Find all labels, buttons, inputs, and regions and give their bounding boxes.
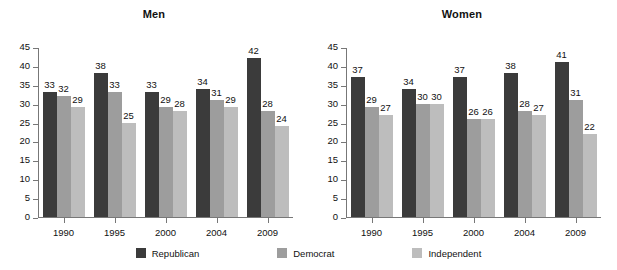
bar-value-label: 42 — [248, 45, 259, 56]
legend-item[interactable]: Independent — [412, 248, 481, 259]
bar: 33 — [108, 47, 122, 217]
y-tick-label: 15 — [316, 154, 338, 165]
chart-title-women: Women — [308, 8, 616, 20]
bar-rect — [159, 107, 173, 217]
bar-value-label: 31 — [570, 87, 581, 98]
bar-set: 332928 — [140, 47, 191, 217]
chart-panel-women: Women 051015202530354045 372927199034303… — [308, 0, 616, 240]
bar: 29 — [224, 47, 238, 217]
y-tick-label: 40 — [316, 60, 338, 71]
legend-label: Democrat — [293, 248, 334, 259]
legend-label: Republican — [152, 248, 200, 259]
legend-swatch-icon — [136, 248, 146, 258]
bar-rect — [416, 104, 430, 217]
x-tick-label: 2000 — [155, 227, 176, 238]
bar: 38 — [504, 47, 518, 217]
bar-rect — [247, 58, 261, 217]
bar-set: 422824 — [242, 47, 293, 217]
y-tick-label: 5 — [316, 192, 338, 203]
bar-value-label: 30 — [417, 91, 428, 102]
bar-value-label: 24 — [276, 113, 287, 124]
y-tick-label: 35 — [316, 79, 338, 90]
bar: 27 — [379, 47, 393, 217]
bar-rect — [224, 107, 238, 217]
x-tick-label: 1995 — [412, 227, 433, 238]
bar-rect — [43, 92, 57, 217]
bar: 32 — [57, 47, 71, 217]
legend-item[interactable]: Republican — [136, 248, 200, 259]
bar-set: 382827 — [499, 47, 550, 217]
bar-value-label: 29 — [225, 94, 236, 105]
legend-item[interactable]: Democrat — [277, 248, 334, 259]
x-tick-mark — [64, 218, 65, 223]
bar: 34 — [402, 47, 416, 217]
y-tick-label: 30 — [316, 98, 338, 109]
bar-value-label: 34 — [197, 76, 208, 87]
bar-rect — [275, 126, 289, 217]
x-tick-label: 1995 — [104, 227, 125, 238]
bar-rect — [481, 119, 495, 217]
y-tick-label: 20 — [8, 135, 30, 146]
bar-value-label: 31 — [211, 87, 222, 98]
bar-value-label: 29 — [160, 94, 171, 105]
bar: 28 — [518, 47, 532, 217]
y-tick-mark — [341, 218, 346, 219]
bar: 28 — [173, 47, 187, 217]
bar: 38 — [94, 47, 108, 217]
bar-value-label: 33 — [146, 79, 157, 90]
bar-rect — [430, 104, 444, 217]
x-tick-mark — [525, 218, 526, 223]
bar-rect — [173, 111, 187, 217]
y-tick-label: 40 — [8, 60, 30, 71]
y-tick-label: 35 — [8, 79, 30, 90]
bar-value-label: 22 — [584, 121, 595, 132]
x-tick-mark — [423, 218, 424, 223]
bar-rect — [94, 73, 108, 217]
bar-value-label: 37 — [352, 64, 363, 75]
bar: 27 — [532, 47, 546, 217]
bar: 29 — [71, 47, 85, 217]
y-tick-label: 5 — [8, 192, 30, 203]
bar-rect — [402, 89, 416, 217]
legend-label: Independent — [428, 248, 481, 259]
bar-value-label: 29 — [72, 94, 83, 105]
bar: 41 — [555, 47, 569, 217]
bar: 22 — [583, 47, 597, 217]
bar-rect — [379, 115, 393, 217]
bar-set: 343129 — [191, 47, 242, 217]
y-tick-label: 25 — [316, 117, 338, 128]
y-tick-label: 25 — [8, 117, 30, 128]
bar-rect — [532, 115, 546, 217]
bar-value-label: 28 — [262, 98, 273, 109]
bar-rect — [57, 96, 71, 217]
bar-group: 372626 — [448, 47, 499, 217]
bar-value-label: 38 — [95, 60, 106, 71]
bar-value-label: 32 — [58, 83, 69, 94]
x-tick-label: 2004 — [514, 227, 535, 238]
x-tick-label: 2009 — [257, 227, 278, 238]
y-tick-label: 45 — [8, 41, 30, 52]
bar: 30 — [416, 47, 430, 217]
bar: 33 — [145, 47, 159, 217]
bar-value-label: 29 — [366, 94, 377, 105]
x-tick-label: 1990 — [361, 227, 382, 238]
bar: 33 — [43, 47, 57, 217]
y-tick-label: 30 — [8, 98, 30, 109]
bar-value-label: 26 — [468, 106, 479, 117]
bar-rect — [351, 77, 365, 217]
bar-set: 383325 — [89, 47, 140, 217]
y-tick-label: 20 — [316, 135, 338, 146]
x-tick-label: 2000 — [463, 227, 484, 238]
y-tick-label: 10 — [8, 173, 30, 184]
y-tick-label: 10 — [316, 173, 338, 184]
bar-value-label: 37 — [454, 64, 465, 75]
bar-set: 372626 — [448, 47, 499, 217]
x-tick-mark — [115, 218, 116, 223]
x-tick-mark — [576, 218, 577, 223]
bar-value-label: 34 — [403, 76, 414, 87]
bar-value-label: 41 — [556, 49, 567, 60]
bar: 28 — [261, 47, 275, 217]
bar: 26 — [481, 47, 495, 217]
bar-rect — [261, 111, 275, 217]
bar-value-label: 28 — [519, 98, 530, 109]
